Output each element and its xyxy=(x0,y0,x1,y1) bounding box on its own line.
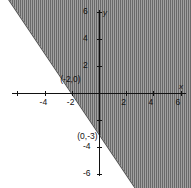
x-tick-label: 4 xyxy=(148,98,153,107)
x-tick-label: -4 xyxy=(40,98,48,107)
x-tick xyxy=(181,91,182,96)
x-tick xyxy=(153,91,154,96)
x-tick-label: 2 xyxy=(121,98,126,107)
y-tick xyxy=(97,120,102,121)
x-tick xyxy=(72,91,73,96)
point-label-a: (-2,0) xyxy=(60,75,80,84)
y-axis-label: y xyxy=(103,8,107,17)
point-label-b: (0,-3) xyxy=(77,132,97,141)
y-tick-label: -4 xyxy=(83,142,91,151)
y-tick xyxy=(97,174,102,175)
y-tick-label: 2 xyxy=(83,61,88,70)
y-axis xyxy=(99,10,101,176)
y-tick xyxy=(97,66,102,67)
x-tick-label: -2 xyxy=(67,98,75,107)
x-tick xyxy=(17,91,18,96)
y-tick-label: -6 xyxy=(83,169,91,178)
x-tick xyxy=(45,91,46,96)
x-tick xyxy=(126,91,127,96)
inequality-graph: x y -4-2246642-4-6 (-2,0) (0,-3) xyxy=(0,0,191,188)
y-tick xyxy=(97,12,102,13)
y-tick-label: 4 xyxy=(83,34,88,43)
x-tick-label: 6 xyxy=(176,98,181,107)
y-tick-label: 6 xyxy=(83,7,88,16)
y-tick xyxy=(97,147,102,148)
y-tick xyxy=(97,39,102,40)
